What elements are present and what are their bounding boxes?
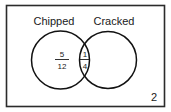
- outside-region-value: 2: [151, 91, 157, 103]
- chipped-only-numerator: 5: [60, 50, 65, 59]
- intersection-denominator: 4: [83, 62, 88, 71]
- venn-diagram-canvas: Chipped Cracked 5 12 1 4 2: [0, 0, 171, 112]
- set-label-cracked: Cracked: [94, 15, 135, 27]
- intersection-numerator: 1: [83, 50, 88, 59]
- chipped-only-denominator: 12: [58, 62, 67, 71]
- venn-diagram: Chipped Cracked 5 12 1 4 2: [0, 0, 171, 112]
- set-label-chipped: Chipped: [34, 15, 75, 27]
